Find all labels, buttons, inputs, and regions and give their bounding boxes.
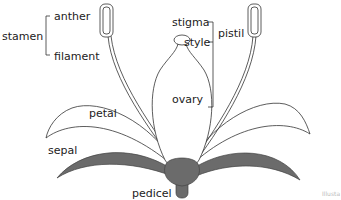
label-stamen: stamen xyxy=(2,30,43,43)
label-sepal: sepal xyxy=(48,144,77,157)
anther-right-inner xyxy=(251,7,258,34)
sepal-right xyxy=(194,153,300,180)
label-pedicel: pedicel xyxy=(132,187,172,200)
ovary xyxy=(152,44,212,169)
label-stigma: stigma xyxy=(172,16,210,29)
stamen-bracket xyxy=(46,16,50,55)
receptacle xyxy=(165,158,200,186)
label-ovary: ovary xyxy=(172,93,204,106)
label-pistil: pistil xyxy=(218,27,244,40)
label-style: style xyxy=(184,36,211,49)
label-anther: anther xyxy=(54,10,91,23)
anther-left-inner xyxy=(103,7,110,34)
flower-diagram: anther stamen filament stigma style pist… xyxy=(0,0,341,200)
label-petal: petal xyxy=(89,107,117,120)
credit-text: Illusta xyxy=(322,190,340,197)
label-filament: filament xyxy=(54,50,100,63)
